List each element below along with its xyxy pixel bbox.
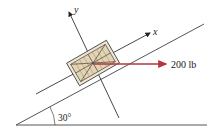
force-label: 200 lb [171,59,196,70]
incline-surface [16,24,204,125]
angle-label: 30° [58,113,72,123]
angle-arc [50,107,55,125]
x-axis-label: x [152,26,158,37]
y-axis-label: y [73,4,79,15]
crate [67,40,120,86]
incline-diagram: x y 200 lb 30° [0,0,217,132]
